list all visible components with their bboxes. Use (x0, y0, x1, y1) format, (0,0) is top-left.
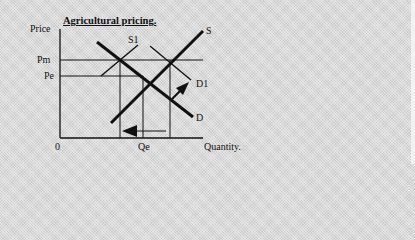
origin-label: 0 (55, 142, 60, 152)
pm-label: Pm (37, 55, 50, 65)
s-curve (111, 31, 203, 123)
x-axis-label: Quantity. (204, 142, 241, 152)
d-curve (97, 42, 193, 117)
s1-label: S1 (128, 35, 139, 45)
qe-label: Qe (138, 142, 150, 152)
panel-edge (411, 0, 415, 164)
quantity-arrow-head (122, 125, 137, 137)
d1-label: D1 (196, 79, 208, 89)
pe-label: Pe (44, 71, 54, 81)
s-label: S (206, 26, 212, 36)
d-label: D (196, 113, 203, 123)
diagram-title: Agricultural pricing. (63, 15, 156, 26)
y-axis-label: Price (30, 24, 51, 34)
diagram-panel: Agricultural pricing. Price Pm Pe 0 Qe Q… (0, 0, 415, 164)
